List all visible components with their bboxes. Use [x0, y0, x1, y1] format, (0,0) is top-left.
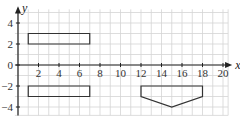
x-tick-label: 4 [56, 67, 62, 79]
x-tick-label: 16 [177, 67, 189, 79]
x-axis-label: x [234, 58, 240, 72]
y-axis-label: y [21, 1, 28, 15]
y-tick-label: 2 [8, 38, 14, 50]
grid [15, 9, 228, 115]
x-tick-label: 10 [115, 67, 127, 79]
x-tick-label: 14 [156, 67, 168, 79]
x-tick-label: 12 [136, 67, 147, 79]
x-tick-label: 8 [97, 67, 103, 79]
x-tick-label: 20 [218, 67, 230, 79]
y-tick-label: −2 [1, 80, 13, 92]
coordinate-grid-figure: xy 2468101214161820420−2−4 [0, 0, 240, 124]
x-tick-label: 6 [77, 67, 83, 79]
y-tick-label: −4 [1, 101, 13, 113]
x-tick-label: 18 [197, 67, 209, 79]
y-axis-arrow-icon [15, 6, 21, 13]
y-tick-label: 4 [8, 17, 14, 29]
x-tick-label: 2 [36, 67, 42, 79]
y-tick-label: 0 [8, 59, 14, 71]
